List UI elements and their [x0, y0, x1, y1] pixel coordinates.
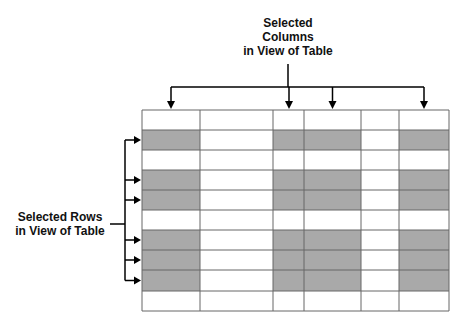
selected-cell	[273, 230, 304, 250]
selected-cell	[273, 270, 304, 291]
selected-cell	[304, 250, 361, 270]
arrow-down-icon	[285, 101, 293, 109]
selected-cell	[399, 170, 449, 190]
selected-cell	[399, 230, 449, 250]
selected-cell	[142, 130, 200, 150]
selected-cell	[142, 230, 200, 250]
selected-cell	[142, 170, 200, 190]
selected-cell	[304, 130, 361, 150]
selected-cell	[142, 190, 200, 210]
selected-cell	[399, 130, 449, 150]
selected-cell	[273, 250, 304, 270]
selected-cell	[142, 250, 200, 270]
selected-cell	[304, 270, 361, 291]
selected-cell	[304, 170, 361, 190]
selected-cell	[273, 190, 304, 210]
arrow-right-icon	[134, 236, 141, 244]
selected-cell	[304, 190, 361, 210]
arrow-right-icon	[134, 176, 141, 184]
selected-cell	[142, 270, 200, 291]
arrow-right-icon	[134, 196, 141, 204]
selected-cell	[399, 190, 449, 210]
selected-cell	[273, 170, 304, 190]
arrow-right-icon	[134, 256, 141, 264]
arrow-down-icon	[329, 101, 337, 109]
selected-cell	[304, 230, 361, 250]
selected-cell	[399, 270, 449, 291]
table-diagram	[0, 0, 471, 327]
selected-cell	[399, 250, 449, 270]
arrow-down-icon	[167, 101, 175, 109]
arrow-right-icon	[134, 277, 141, 285]
selected-cell	[273, 130, 304, 150]
arrow-right-icon	[134, 136, 141, 144]
arrow-down-icon	[420, 101, 428, 109]
